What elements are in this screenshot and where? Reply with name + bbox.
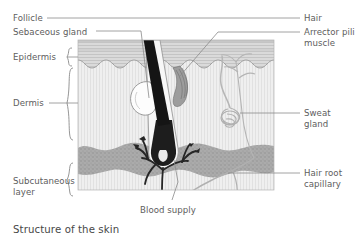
label-subcutaneous-layer: Subcutaneous layer <box>13 176 79 197</box>
skin-structure-figure: Follicle Sebaceous gland Epidermis Dermi… <box>0 0 358 244</box>
label-blood-supply: Blood supply <box>140 205 196 216</box>
layer-brackets <box>67 48 73 196</box>
label-dermis: Dermis <box>13 98 44 109</box>
label-arrector-pili-muscle: Arrector pili muscle <box>304 27 356 48</box>
figure-caption: Structure of the skin <box>13 224 119 235</box>
label-epidermis: Epidermis <box>13 52 56 63</box>
label-sweat-gland: Sweat gland <box>304 108 352 129</box>
label-sebaceous-gland: Sebaceous gland <box>13 27 87 38</box>
bracket-dermis <box>67 68 73 140</box>
label-hair: Hair <box>304 13 322 24</box>
label-hair-root-capillary: Hair root capillary <box>304 168 354 189</box>
label-follicle: Follicle <box>13 13 43 24</box>
